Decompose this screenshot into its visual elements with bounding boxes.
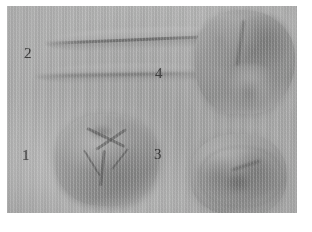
plate-vignette (7, 6, 297, 213)
specimen-plate-image: 2 4 1 3 (0, 0, 312, 232)
photographic-plate: 2 4 1 3 (7, 6, 297, 213)
